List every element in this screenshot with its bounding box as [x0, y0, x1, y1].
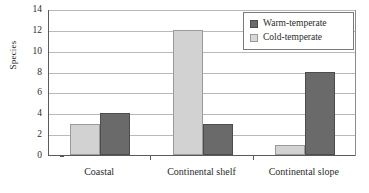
chart-legend: Warm-temperate Cold-temperate: [243, 12, 354, 50]
x-axis-category-label: Continental shelf: [167, 166, 236, 177]
bar-warm-temperate-continental-slope: [305, 72, 335, 155]
x-axis-category-label: Coastal: [84, 166, 114, 177]
y-axis-tick-label: 0: [37, 151, 42, 161]
y-axis-tick-label: 6: [37, 89, 42, 99]
y-axis-tick-label: 4: [37, 110, 42, 120]
legend-swatch-cold-temperate-icon: [250, 34, 258, 42]
bar-chart: Species 02468101214 CoastalContinental s…: [0, 0, 369, 193]
x-axis-tick-mark: [150, 156, 151, 160]
y-axis-tick-label: 8: [37, 68, 42, 78]
legend-label-warm-temperate: Warm-temperate: [263, 19, 327, 29]
legend-label-cold-temperate: Cold-temperate: [263, 33, 322, 43]
y-axis-tick-label: 2: [37, 130, 42, 140]
y-axis-tick-mark: [60, 156, 64, 157]
x-axis-category-label: Continental slope: [269, 166, 339, 177]
legend-entry-cold-temperate: Cold-temperate: [250, 31, 348, 45]
y-axis-tick-label: 14: [33, 5, 43, 15]
y-axis-tick-label: 12: [33, 26, 43, 36]
legend-swatch-warm-temperate-icon: [250, 20, 258, 28]
bar-cold-temperate-continental-slope: [275, 145, 305, 155]
legend-entry-warm-temperate: Warm-temperate: [250, 17, 348, 31]
x-axis-tick-mark: [253, 156, 254, 160]
x-axis-category-labels: CoastalContinental shelfContinental slop…: [48, 166, 355, 182]
y-axis-tick-label: 10: [33, 47, 43, 57]
y-axis-tick-labels: 02468101214: [16, 10, 42, 156]
